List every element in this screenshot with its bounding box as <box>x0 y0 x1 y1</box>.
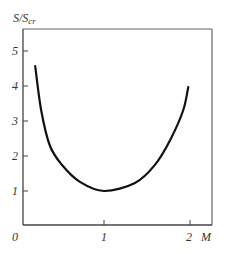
x-tick-label-2: 2 <box>186 230 192 244</box>
x-axis-label: M <box>200 230 212 244</box>
x-ticks <box>104 220 190 225</box>
y-tick-label-2: 2 <box>12 149 18 163</box>
y-tick-label-3: 3 <box>11 114 18 128</box>
chart: 1 2 3 4 5 0 1 2 M S/Scr <box>0 0 225 254</box>
y-axis-label: S/Scr <box>13 11 36 26</box>
y-tick-label-4: 4 <box>12 79 18 93</box>
y-tick-label-5: 5 <box>12 44 18 58</box>
y-ticks <box>23 51 28 191</box>
plot-frame <box>23 29 212 225</box>
origin-label: 0 <box>12 230 18 244</box>
data-curve <box>35 66 188 191</box>
y-axis-label-sub: cr <box>28 16 36 26</box>
y-tick-label-1: 1 <box>12 184 18 198</box>
x-tick-label-1: 1 <box>101 230 107 244</box>
y-axis-label-main: S/S <box>13 11 28 25</box>
